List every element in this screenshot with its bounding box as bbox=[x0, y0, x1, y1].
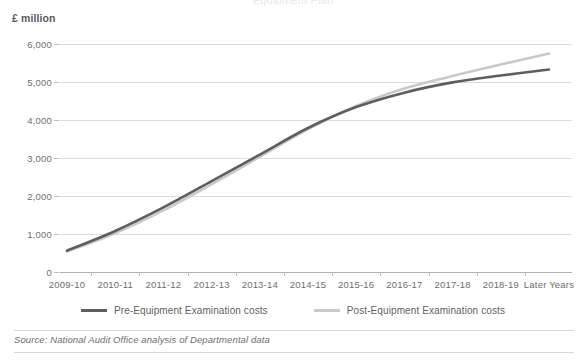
legend-swatch-icon bbox=[81, 309, 107, 312]
x-axis-tick-mark bbox=[91, 272, 92, 276]
legend-item[interactable]: Pre-Equipment Examination costs bbox=[81, 305, 268, 316]
x-axis-tick-mark bbox=[188, 272, 189, 276]
y-axis-tick-label: 3,000 bbox=[0, 153, 52, 164]
gridline bbox=[60, 196, 572, 197]
chart-legend: Pre-Equipment Examination costsPost-Equi… bbox=[0, 305, 586, 316]
y-axis-tick-mark bbox=[54, 196, 59, 197]
gridline bbox=[60, 82, 572, 83]
x-axis-tick-label: Later Years bbox=[524, 279, 574, 290]
y-axis-tick-mark bbox=[54, 158, 59, 159]
cut-off-title: Equipment Plan bbox=[0, 0, 586, 6]
legend-swatch-icon bbox=[314, 309, 340, 312]
x-axis-tick-mark bbox=[429, 272, 430, 276]
chart-container: Equipment Plan £ million 2009-102010-112… bbox=[0, 0, 586, 360]
gridline bbox=[60, 272, 572, 273]
y-axis-tick-label: 5,000 bbox=[0, 77, 52, 88]
x-axis-tick-mark bbox=[332, 272, 333, 276]
x-axis-tick-mark bbox=[380, 272, 381, 276]
x-axis-tick-label: 2015-16 bbox=[338, 279, 374, 290]
y-axis-unit-label: £ million bbox=[12, 12, 56, 24]
y-axis-tick-label: 6,000 bbox=[0, 39, 52, 50]
plot-area bbox=[60, 44, 572, 272]
source-divider-top bbox=[14, 330, 574, 331]
y-axis-tick-mark bbox=[54, 44, 59, 45]
y-axis-tick-label: 4,000 bbox=[0, 115, 52, 126]
y-axis-tick-label: 0 bbox=[0, 267, 52, 278]
source-note: Source: National Audit Office analysis o… bbox=[14, 334, 270, 345]
x-axis-tick-label: 2010-11 bbox=[97, 279, 133, 290]
x-axis-tick-label: 2018-19 bbox=[483, 279, 519, 290]
y-axis-tick-mark bbox=[54, 120, 59, 121]
legend-item[interactable]: Post-Equipment Examination costs bbox=[314, 305, 505, 316]
gridline bbox=[60, 44, 572, 45]
gridline bbox=[60, 158, 572, 159]
x-axis-tick-label: 2012-13 bbox=[193, 279, 229, 290]
gridline bbox=[60, 120, 572, 121]
x-axis-tick-label: 2013-14 bbox=[242, 279, 278, 290]
x-axis-tick-label: 2017-18 bbox=[434, 279, 470, 290]
y-axis-tick-mark bbox=[54, 272, 59, 273]
x-axis-tick-mark bbox=[477, 272, 478, 276]
gridline bbox=[60, 234, 572, 235]
legend-label: Pre-Equipment Examination costs bbox=[114, 305, 268, 316]
x-axis-tick-mark bbox=[236, 272, 237, 276]
x-axis-tick-label: 2009-10 bbox=[49, 279, 85, 290]
y-axis-tick-mark bbox=[54, 82, 59, 83]
x-axis-tick-mark bbox=[525, 272, 526, 276]
x-axis-tick-label: 2011-12 bbox=[146, 279, 182, 290]
x-axis-tick-label: 2016-17 bbox=[386, 279, 422, 290]
x-axis-tick-mark bbox=[139, 272, 140, 276]
y-axis-tick-label: 2,000 bbox=[0, 191, 52, 202]
source-divider-bottom bbox=[14, 352, 574, 353]
legend-label: Post-Equipment Examination costs bbox=[347, 305, 505, 316]
x-axis-tick-mark bbox=[284, 272, 285, 276]
y-axis-tick-label: 1,000 bbox=[0, 229, 52, 240]
x-axis-tick-label: 2014-15 bbox=[290, 279, 326, 290]
y-axis-tick-mark bbox=[54, 234, 59, 235]
